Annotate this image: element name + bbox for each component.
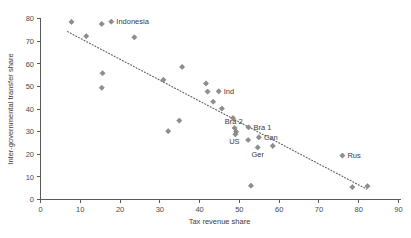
plot-canvas: 010203040506070809001020304050607080Tax … (0, 0, 411, 238)
data-point-label: Bra 2 (225, 117, 243, 126)
data-point-marker (350, 184, 355, 189)
data-point-marker (340, 153, 345, 158)
data-point-label: Bra 1 (254, 123, 272, 132)
y-tick-label: 20 (26, 150, 34, 159)
data-point: Bra 1 (246, 123, 272, 132)
y-tick-label: 30 (26, 127, 34, 136)
y-tick-label: 70 (26, 37, 34, 46)
x-tick-label: 40 (195, 205, 203, 214)
y-tick-label: 60 (26, 60, 34, 69)
data-point (205, 89, 210, 94)
data-point (270, 143, 275, 148)
data-point-marker (205, 89, 210, 94)
data-point (246, 137, 251, 142)
data-point-label: Indonesia (116, 17, 149, 26)
data-point (180, 64, 185, 69)
data-point: Can (256, 133, 277, 142)
x-tick-label: 50 (235, 205, 243, 214)
data-point-marker (211, 99, 216, 104)
data-point-label: Can (264, 133, 278, 142)
trend-line (68, 32, 367, 189)
data-point: US (229, 132, 239, 146)
data-point-marker (84, 34, 89, 39)
data-point: Ger (251, 145, 264, 159)
data-point-marker (203, 81, 208, 86)
data-point (166, 129, 171, 134)
data-point-marker (177, 118, 182, 123)
data-point (350, 184, 355, 189)
data-point (84, 34, 89, 39)
y-tick-label: 50 (26, 82, 34, 91)
data-point-marker (246, 137, 251, 142)
data-point-label: US (229, 137, 239, 146)
data-point-marker (99, 85, 104, 90)
data-point-marker (365, 184, 370, 189)
data-point: Ind (216, 87, 234, 96)
scatter-chart: 010203040506070809001020304050607080Tax … (0, 0, 411, 238)
data-point-label: Ger (251, 150, 264, 159)
data-point-label: Ind (224, 87, 234, 96)
x-tick-label: 70 (315, 205, 323, 214)
data-point: Rus (340, 151, 361, 160)
x-axis-title: Tax revenue share (189, 217, 251, 226)
data-point (100, 71, 105, 76)
x-tick-label: 10 (76, 205, 84, 214)
x-tick-label: 90 (394, 205, 402, 214)
data-point-marker (166, 129, 171, 134)
data-point-marker (180, 64, 185, 69)
data-point-marker (109, 19, 114, 24)
data-point (177, 118, 182, 123)
x-tick-label: 30 (156, 205, 164, 214)
data-point (69, 19, 74, 24)
data-point-marker (216, 89, 221, 94)
y-tick-label: 0 (30, 195, 34, 204)
data-point-marker (132, 35, 137, 40)
y-tick-label: 40 (26, 105, 34, 114)
data-point-marker (270, 143, 275, 148)
y-tick-label: 10 (26, 173, 34, 182)
data-point (248, 183, 253, 188)
x-tick-label: 0 (38, 205, 42, 214)
data-point-marker (256, 135, 261, 140)
data-point (99, 21, 104, 26)
data-point (99, 85, 104, 90)
y-tick-label: 80 (26, 14, 34, 23)
data-point-marker (248, 183, 253, 188)
data-point: Indonesia (109, 17, 150, 26)
data-point (219, 106, 224, 111)
data-point (211, 99, 216, 104)
data-point (203, 81, 208, 86)
data-point-label: Rus (347, 151, 361, 160)
data-point (365, 184, 370, 189)
data-point-marker (99, 21, 104, 26)
x-tick-label: 20 (116, 205, 124, 214)
data-point: Bra 2 (225, 117, 243, 131)
data-point (132, 35, 137, 40)
data-point-marker (219, 106, 224, 111)
x-tick-label: 60 (275, 205, 283, 214)
data-point-marker (69, 19, 74, 24)
y-axis-title: Inter-governmental transfer share (6, 53, 15, 164)
x-tick-label: 80 (355, 205, 363, 214)
data-point-marker (100, 71, 105, 76)
